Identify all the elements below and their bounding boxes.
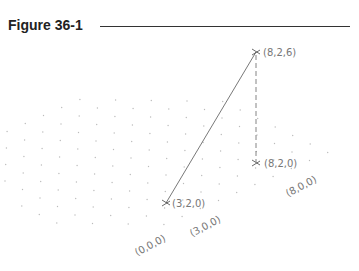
- grid-dot: [78, 132, 79, 133]
- grid-dot: [128, 223, 129, 224]
- grid-dot: [184, 150, 185, 151]
- grid-dot: [237, 175, 238, 176]
- grid-dot: [238, 142, 239, 143]
- grid-dot: [56, 222, 57, 223]
- grid-dot: [23, 172, 24, 173]
- grid-dot: [61, 107, 62, 108]
- grid-dot: [236, 192, 237, 193]
- axis-label: (3,0,0): [188, 213, 223, 238]
- grid-dot: [256, 134, 257, 135]
- grid-dot: [24, 139, 25, 140]
- grid-dot: [130, 174, 131, 175]
- grid-dot: [221, 117, 222, 118]
- grid-dot: [77, 148, 78, 149]
- point-label: (8,2,6): [263, 47, 296, 58]
- grid-dot: [6, 131, 7, 132]
- grid-dot: [40, 181, 41, 182]
- grid-dot: [275, 126, 276, 127]
- grid-dot: [186, 117, 187, 118]
- grid-dot: [130, 157, 131, 158]
- grid-dot: [255, 167, 256, 168]
- axis-label: (8,0,0): [284, 173, 319, 198]
- grid-dot: [291, 151, 292, 152]
- grid-dot: [167, 125, 168, 126]
- grid-dot: [150, 116, 151, 117]
- grid-dot: [4, 180, 5, 181]
- grid-dot: [6, 147, 7, 148]
- grid-dot: [42, 131, 43, 132]
- grid-dot: [219, 167, 220, 168]
- grid-dot: [131, 141, 132, 142]
- grid-dot: [204, 109, 205, 110]
- point-label: (8,2,0): [264, 158, 297, 169]
- grid-dot: [93, 206, 94, 207]
- grid-dot: [149, 133, 150, 134]
- grid-dot: [23, 156, 24, 157]
- grid-dot: [111, 198, 112, 199]
- grid-dot: [221, 134, 222, 135]
- grid-dot: [79, 99, 80, 100]
- grid-dot: [202, 158, 203, 159]
- grid-dot: [5, 164, 6, 165]
- grid-dot: [59, 156, 60, 157]
- grid-dot: [95, 157, 96, 158]
- point-label: (3,2,0): [172, 198, 205, 209]
- grid-dot: [76, 165, 77, 166]
- grid-dot: [111, 182, 112, 183]
- grid-dot: [237, 159, 238, 160]
- grid-dot: [240, 109, 241, 110]
- grid-dot: [274, 143, 275, 144]
- grid-dot: [57, 206, 58, 207]
- grid-dot: [94, 173, 95, 174]
- grid-dot: [114, 132, 115, 133]
- grid-dot: [166, 158, 167, 159]
- grid-dot: [220, 150, 221, 151]
- grid-dot: [167, 141, 168, 142]
- solid-line: [166, 52, 256, 203]
- grid-dot: [39, 214, 40, 215]
- grid-dot: [113, 149, 114, 150]
- grid-dot: [272, 176, 273, 177]
- grid-dot: [148, 166, 149, 167]
- grid-dot: [21, 205, 22, 206]
- grid-dot: [309, 160, 310, 161]
- grid-dot: [95, 140, 96, 141]
- grid-dot: [132, 108, 133, 109]
- grid-dot: [43, 115, 44, 116]
- grid-dot: [96, 124, 97, 125]
- grid-dot: [39, 197, 40, 198]
- grid-dot: [239, 126, 240, 127]
- grid-dot: [92, 223, 93, 224]
- grid-dot: [74, 214, 75, 215]
- grid-dot: [164, 207, 165, 208]
- grid-dot: [218, 200, 219, 201]
- axis-label: (0,0,0): [133, 232, 168, 257]
- grid-dot: [22, 189, 23, 190]
- grid-dot: [97, 107, 98, 108]
- grid-dot: [129, 190, 130, 191]
- grid-dot: [60, 123, 61, 124]
- grid-dot: [41, 164, 42, 165]
- isometric-diagram: (8,2,6) (8,2,0) (3,2,0) (0,0,0) (3,0,0) …: [0, 0, 359, 271]
- grid-dot: [165, 174, 166, 175]
- grid-dot: [163, 224, 164, 225]
- grid-dot: [257, 118, 258, 119]
- grid-dot: [222, 101, 223, 102]
- grid-dot: [254, 184, 255, 185]
- grid-dot: [165, 191, 166, 192]
- grid-dot: [132, 124, 133, 125]
- grid-dot: [185, 133, 186, 134]
- grid-dot: [75, 198, 76, 199]
- grid-dot: [219, 183, 220, 184]
- grid-dot: [327, 152, 328, 153]
- grid-dot: [310, 143, 311, 144]
- grid-dot: [184, 166, 185, 167]
- grid-dot: [115, 99, 116, 100]
- grid-dot: [76, 181, 77, 182]
- grid-dot: [147, 182, 148, 183]
- grid-dot: [112, 165, 113, 166]
- grid-dot: [201, 175, 202, 176]
- grid-dot: [60, 140, 61, 141]
- grid-dot: [58, 189, 59, 190]
- grid-dot: [183, 183, 184, 184]
